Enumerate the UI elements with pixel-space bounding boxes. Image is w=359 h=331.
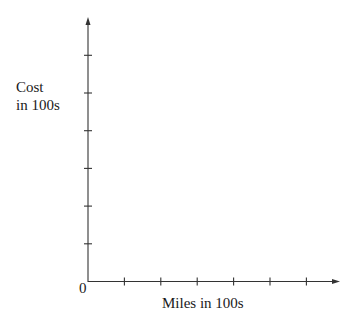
chart-axes <box>0 0 359 331</box>
origin-label: 0 <box>79 280 87 297</box>
x-axis-arrow-icon <box>332 279 340 284</box>
x-axis-label: Miles in 100s <box>162 295 244 312</box>
y-axis-arrow-icon <box>86 17 91 25</box>
y-axis-label-line2: in 100s <box>16 97 60 114</box>
y-axis-label-line1: Cost <box>16 79 44 96</box>
